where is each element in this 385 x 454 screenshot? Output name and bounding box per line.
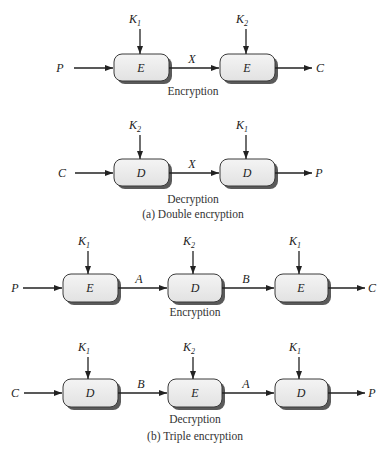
row-title: Encryption <box>169 306 220 319</box>
op-label: D <box>136 166 146 180</box>
output-label: P <box>314 166 323 180</box>
row-title: Encryption <box>167 85 218 98</box>
input-label: P <box>10 281 19 295</box>
row-title: Decryption <box>167 193 219 206</box>
op-label: D <box>190 281 200 295</box>
input-label: C <box>58 166 67 180</box>
key-label: K2 <box>128 118 141 134</box>
op-label: E <box>136 61 145 75</box>
cipher-box-2: D <box>220 159 278 189</box>
link-label: B <box>242 272 250 286</box>
input-label: P <box>55 61 64 75</box>
link-label: A <box>134 272 143 286</box>
link-label: X <box>187 52 196 66</box>
op-label: E <box>296 281 305 295</box>
op-label: D <box>296 386 306 400</box>
cipher-diagram: P E K1 X E K2 C Encryption C D K2 <box>0 0 385 454</box>
cipher-box-1: E <box>63 274 121 305</box>
cipher-box-3: D <box>275 379 331 410</box>
op-label: E <box>85 281 94 295</box>
op-label: D <box>242 166 252 180</box>
cipher-box-1: D <box>63 379 121 410</box>
figure-caption-b: (b) Triple encryption <box>147 430 243 443</box>
op-label: E <box>190 386 199 400</box>
double-encryption-row: P E K1 X E K2 C Encryption <box>55 12 325 98</box>
key-label: K2 <box>182 340 195 356</box>
op-label: E <box>242 61 251 75</box>
double-decryption-row: C D K2 X D K1 P Decryption <box>58 118 323 206</box>
key-label: K1 <box>235 118 248 134</box>
link-label: A <box>241 377 250 391</box>
cipher-box-2: D <box>168 274 225 305</box>
row-title: Decryption <box>169 413 221 426</box>
cipher-box-1: E <box>114 54 172 84</box>
triple-decryption-row: C D K1 B E K2 A D K1 P Decryption <box>11 340 376 426</box>
cipher-box-3: E <box>275 274 331 305</box>
key-label: K1 <box>128 12 141 28</box>
cipher-box-1: D <box>114 159 172 189</box>
key-label: K1 <box>77 340 90 356</box>
cipher-box-2: E <box>220 54 278 84</box>
key-label: K1 <box>288 234 301 250</box>
output-label: P <box>367 386 376 400</box>
output-label: C <box>368 281 377 295</box>
figure-caption-a: (a) Double encryption <box>142 208 244 221</box>
input-label: C <box>11 386 20 400</box>
key-label: K2 <box>235 12 248 28</box>
triple-encryption-row: P E K1 A D K2 B E K1 C Encryption <box>10 234 377 319</box>
key-label: K2 <box>182 234 195 250</box>
op-label: D <box>85 386 95 400</box>
key-label: K1 <box>77 234 90 250</box>
output-label: C <box>316 61 325 75</box>
link-label: B <box>137 377 145 391</box>
key-label: K1 <box>288 340 301 356</box>
link-label: X <box>187 157 196 171</box>
cipher-box-2: E <box>168 379 225 410</box>
